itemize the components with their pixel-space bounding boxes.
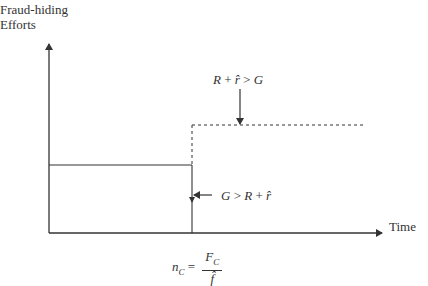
y-axis-label: Fraud-hiding Efforts [0,2,68,32]
upper-rel: > [243,72,250,87]
y-axis-label-line2: Efforts [0,17,68,32]
lower-rhat: r̂ [266,188,271,203]
formula-numerator: FC [202,250,222,271]
lower-condition-label: G > R + r̂ [221,188,271,203]
upper-rhat: r̂ [235,72,240,87]
lower-r: R [244,188,252,203]
lower-lhs: G [221,188,230,203]
lower-plus: + [255,188,262,203]
upper-lhs: R [213,72,221,87]
formula-eq: = [188,259,195,274]
y-axis-label-line1: Fraud-hiding [0,2,68,17]
upper-plus: + [224,72,231,87]
upper-condition-label: R + r̂ > G [213,72,263,87]
threshold-formula: nC = FC f̂ [172,250,222,286]
lower-rel: > [234,188,241,203]
formula-lhs: nC [172,259,185,274]
formula-denominator: f̂ [211,271,215,286]
vertical-down-arrow-icon [189,197,195,203]
x-axis-label: Time [389,219,416,234]
formula-fraction: FC f̂ [202,250,222,286]
upper-rhs: G [254,72,263,87]
